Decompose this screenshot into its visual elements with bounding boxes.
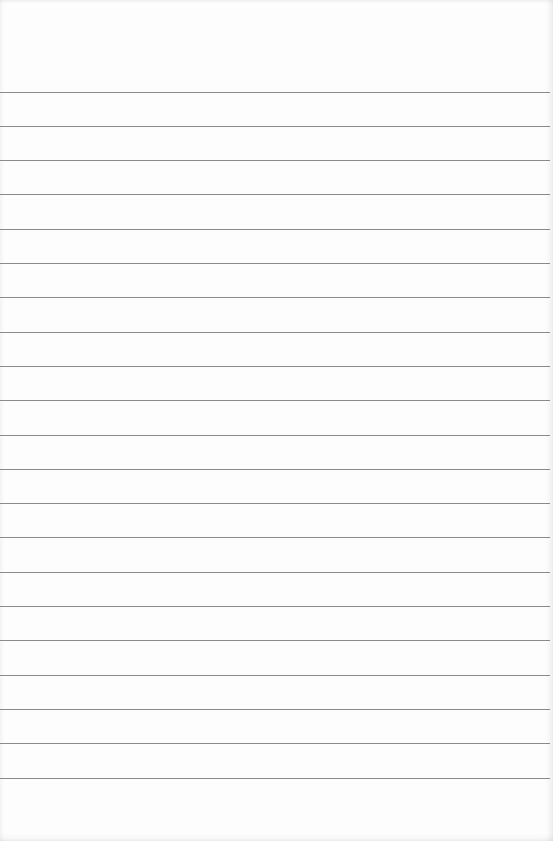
ruled-line bbox=[0, 229, 550, 230]
ruled-line bbox=[0, 297, 550, 298]
ruled-line bbox=[0, 366, 550, 367]
ruled-line bbox=[0, 675, 550, 676]
ruled-line bbox=[0, 606, 550, 607]
ruled-line bbox=[0, 332, 550, 333]
ruled-line bbox=[0, 743, 550, 744]
ruled-notepad-page bbox=[0, 0, 553, 841]
ruled-line bbox=[0, 400, 550, 401]
ruled-line bbox=[0, 469, 550, 470]
ruled-line bbox=[0, 709, 550, 710]
ruled-line bbox=[0, 503, 550, 504]
ruled-line bbox=[0, 92, 550, 93]
ruled-line bbox=[0, 160, 550, 161]
ruled-line bbox=[0, 194, 550, 195]
ruled-line bbox=[0, 263, 550, 264]
ruled-line bbox=[0, 126, 550, 127]
ruled-line bbox=[0, 640, 550, 641]
ruled-line bbox=[0, 572, 550, 573]
ruled-line bbox=[0, 537, 550, 538]
ruled-line bbox=[0, 435, 550, 436]
ruled-line bbox=[0, 778, 550, 779]
